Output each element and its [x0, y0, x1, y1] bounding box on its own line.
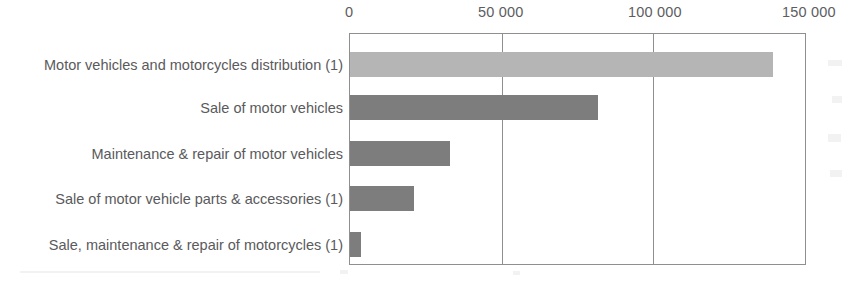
- bar-motor-vehicles-and-motorcycles-distribution: [350, 52, 773, 77]
- scan-artifact: [830, 170, 842, 177]
- category-label-motor-vehicles-and-motorcycles-distribution: Motor vehicles and motorcycles distribut…: [0, 56, 343, 74]
- scan-artifact: [832, 96, 842, 103]
- scan-artifact: [340, 270, 348, 274]
- scan-artifact: [20, 271, 320, 273]
- x-tick-label-50000: 50 000: [478, 4, 524, 21]
- bar-sale-maintenance-and-repair-of-motorcycles: [350, 232, 361, 257]
- x-tick-label-100000: 100 000: [628, 4, 682, 21]
- horizontal-bar-chart: 0 50 000 100 000 150 000 Motor vehicles …: [0, 0, 856, 287]
- scan-artifact: [828, 134, 841, 142]
- bar-sale-of-motor-vehicle-parts-and-accessories: [350, 186, 414, 211]
- x-tick-label-0: 0: [345, 4, 353, 21]
- category-label-sale-maintenance-and-repair-of-motorcycles: Sale, maintenance & repair of motorcycle…: [0, 236, 343, 254]
- category-label-sale-of-motor-vehicle-parts-and-accessories: Sale of motor vehicle parts & accessorie…: [0, 190, 343, 208]
- category-label-maintenance-and-repair-of-motor-vehicles: Maintenance & repair of motor vehicles: [0, 145, 343, 163]
- bar-sale-of-motor-vehicles: [350, 95, 598, 120]
- scan-artifact: [828, 60, 842, 66]
- x-tick-label-150000: 150 000: [782, 4, 836, 21]
- bar-maintenance-and-repair-of-motor-vehicles: [350, 141, 450, 166]
- plot-area: [349, 33, 806, 265]
- scan-artifact: [513, 271, 520, 275]
- category-label-sale-of-motor-vehicles: Sale of motor vehicles: [0, 99, 343, 117]
